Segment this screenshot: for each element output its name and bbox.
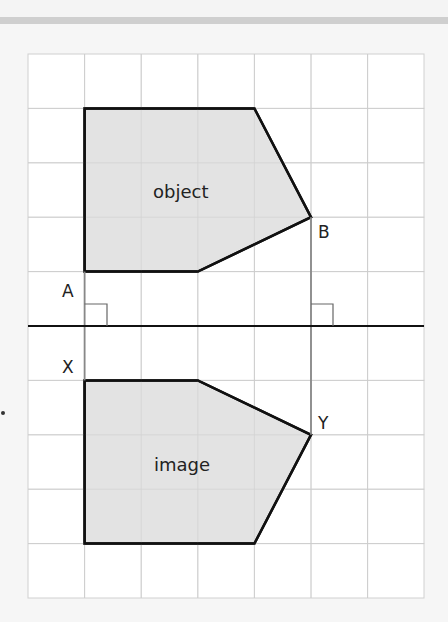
- image-label: image: [154, 454, 210, 475]
- reflection-diagram: object image A B X Y: [0, 0, 448, 622]
- point-label-a: A: [62, 281, 74, 301]
- point-label-y: Y: [317, 413, 329, 433]
- point-label-b: B: [318, 222, 330, 242]
- object-label: object: [153, 181, 208, 202]
- point-label-x: X: [62, 357, 74, 377]
